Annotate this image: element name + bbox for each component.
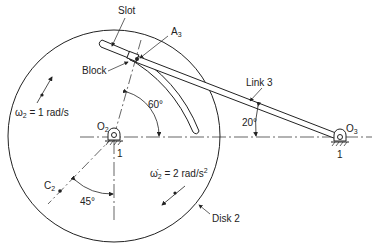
angle-arc-45	[75, 180, 113, 194]
alpha-value: = 2 rad/s	[162, 168, 204, 179]
label-angle-45: 45°	[80, 197, 95, 207]
o2-sub: 2	[105, 126, 109, 133]
diagram-canvas	[0, 0, 383, 249]
label-link3: Link 3	[246, 78, 273, 88]
label-omega: ω2 = 1 rad/s	[15, 108, 69, 119]
omega-symbol: ω	[15, 107, 23, 118]
label-c2: C2	[44, 181, 55, 192]
c2-sub: 2	[51, 185, 55, 192]
label-block: Block	[82, 66, 106, 76]
label-disk2: Disk 2	[212, 214, 240, 224]
link-3	[130, 54, 341, 140]
o3-text: O	[346, 123, 354, 134]
o3-sub: 3	[354, 128, 358, 135]
leader-link3	[250, 88, 262, 101]
label-a3-sub: 3	[178, 31, 182, 38]
label-ground-o2: 1	[117, 149, 123, 159]
label-ground-o3: 1	[337, 150, 343, 160]
label-angle-60: 60°	[148, 100, 163, 110]
label-slot: Slot	[118, 6, 135, 16]
alpha-symbol: ω̇	[150, 168, 158, 179]
label-alpha: ω̇2 = 2 rad/s2	[150, 167, 208, 180]
leader-a3	[140, 36, 168, 58]
o2-text: O	[97, 121, 105, 132]
label-angle-20: 20°	[242, 118, 257, 128]
mechanism-diagram: Slot A3 Block Link 3 60° 20° 45° ω2 = 1 …	[0, 0, 383, 249]
label-o3: O3	[346, 124, 358, 135]
label-a3: A3	[171, 27, 182, 38]
label-a3-text: A	[171, 26, 178, 37]
label-o2: O2	[97, 122, 109, 133]
omega-arrow	[37, 77, 52, 103]
alpha-sup: 2	[204, 167, 208, 174]
leader-slot	[112, 18, 125, 46]
point-c2	[58, 189, 62, 193]
leader-disk2	[199, 205, 210, 214]
alpha-arrow	[162, 186, 185, 205]
pin-a3	[135, 57, 139, 61]
slot	[99, 40, 199, 134]
omega-value: = 1 rad/s	[27, 107, 69, 118]
leader-block	[108, 62, 128, 71]
